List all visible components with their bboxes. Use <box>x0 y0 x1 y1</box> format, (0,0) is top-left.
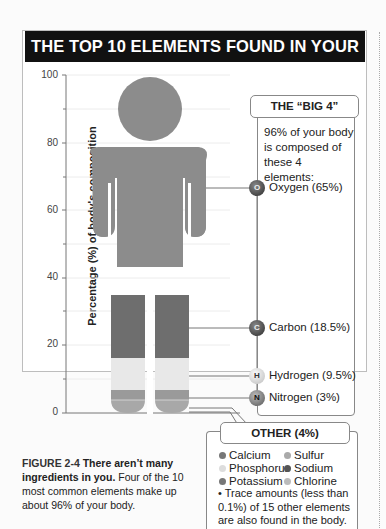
legend-phosphorus: Phosphorus <box>219 462 290 474</box>
oxygen-label: Oxygen (65%) <box>269 181 343 193</box>
nitrogen-label: Nitrogen (3%) <box>269 391 340 403</box>
legend-sodium: Sodium <box>284 462 333 474</box>
figure-head <box>118 77 182 141</box>
legend-chlorine: Chlorine <box>284 475 337 487</box>
carbon-ball-icon: C <box>249 320 265 336</box>
phosphorus-dot-icon <box>219 465 226 472</box>
calcium-dot-icon <box>219 452 226 459</box>
big4-heading: THE “BIG 4” <box>250 95 359 118</box>
big4-description: 96% of your body is composed of these 4 … <box>264 125 354 185</box>
legend-potassium: Potassium <box>219 475 283 487</box>
hydrogen-ball-icon: H <box>249 368 265 384</box>
figure-caption: FIGURE 2-4 There aren’t many ingredients… <box>22 456 202 512</box>
legend-sulfur: Sulfur <box>284 449 324 461</box>
other-heading: OTHER (4%) <box>220 422 350 444</box>
potassium-dot-icon <box>219 478 226 485</box>
chlorine-dot-icon <box>284 478 291 485</box>
sodium-dot-icon <box>284 465 291 472</box>
carbon-label: Carbon (18.5%) <box>269 321 350 333</box>
sulfur-dot-icon <box>284 452 291 459</box>
oxygen-ball-icon: O <box>249 180 265 196</box>
legend-calcium: Calcium <box>219 449 271 461</box>
nitrogen-ball-icon: N <box>249 390 265 406</box>
figure-number: FIGURE 2-4 <box>22 457 80 469</box>
trace-note: • Trace amounts (less than 0.1%) of 15 o… <box>218 487 353 528</box>
hydrogen-label: Hydrogen (9.5%) <box>269 369 356 381</box>
